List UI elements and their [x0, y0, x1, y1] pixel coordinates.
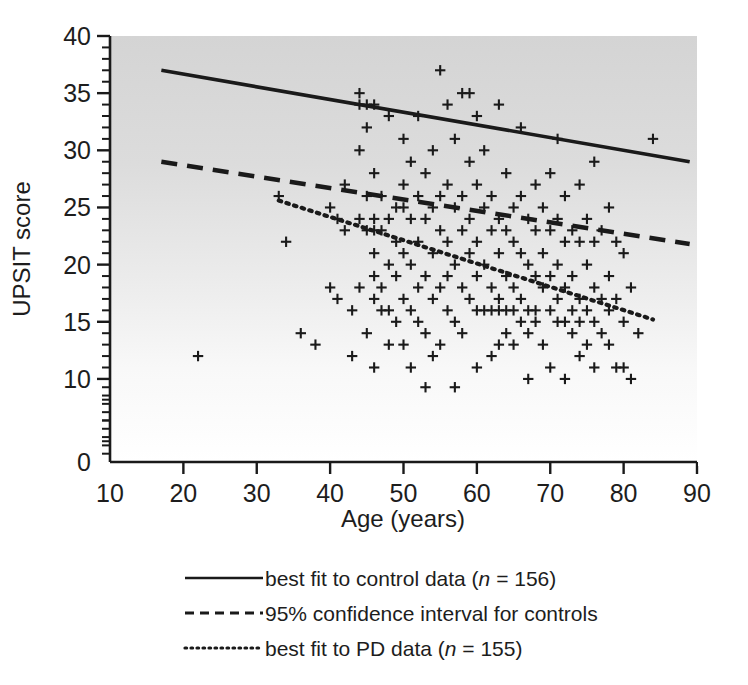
y-tick-label: 30	[63, 136, 91, 164]
legend: best fit to control data (n = 156)95% co…	[185, 567, 598, 660]
y-tick-label: 15	[63, 308, 91, 336]
x-tick-label: 60	[463, 479, 491, 507]
x-tick-label: 10	[96, 479, 124, 507]
right-margin-mask	[698, 30, 748, 466]
y-tick-label: 0	[77, 448, 91, 476]
chart-canvas: 010152025303540 102030405060708090 Age (…	[0, 0, 748, 685]
x-axis-tick-labels: 102030405060708090	[96, 479, 711, 507]
x-tick-label: 90	[683, 479, 711, 507]
scatter-plot-figure: 010152025303540 102030405060708090 Age (…	[0, 0, 748, 685]
y-axis-title: UPSIT score	[8, 181, 35, 317]
x-axis-ticks	[183, 462, 697, 474]
x-tick-label: 30	[243, 479, 271, 507]
legend-label: best fit to control data (n = 156)	[265, 567, 556, 590]
x-tick-label: 50	[390, 479, 418, 507]
x-tick-label: 40	[316, 479, 344, 507]
y-tick-label: 40	[63, 22, 91, 50]
y-tick-label: 35	[63, 79, 91, 107]
x-tick-label: 80	[610, 479, 638, 507]
y-tick-label: 20	[63, 251, 91, 279]
y-tick-label: 25	[63, 193, 91, 221]
y-axis-tick-labels: 010152025303540	[63, 22, 91, 476]
x-tick-label: 70	[536, 479, 564, 507]
x-tick-label: 20	[169, 479, 197, 507]
y-axis-ticks	[97, 36, 110, 454]
legend-label: best fit to PD data (n = 155)	[265, 637, 522, 660]
legend-label: 95% confidence interval for controls	[265, 602, 598, 625]
y-tick-label: 10	[63, 365, 91, 393]
x-axis-title: Age (years)	[341, 505, 465, 532]
